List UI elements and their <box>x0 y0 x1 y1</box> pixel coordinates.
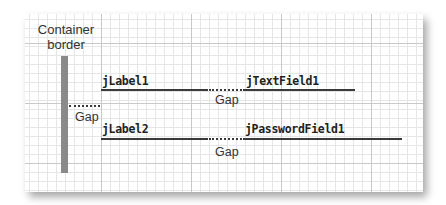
jlabel1-underline <box>101 89 208 91</box>
jlabel1-text: jLabel1 <box>102 74 148 88</box>
jpasswordfield1-text: jPasswordField1 <box>245 122 344 136</box>
container-label-line2: border <box>34 37 98 52</box>
row1-gap-dotted-line <box>209 89 242 91</box>
jlabel2-underline <box>101 138 208 140</box>
container-label-line1: Container <box>34 22 98 37</box>
jtextfield1-underline <box>243 89 355 91</box>
jpasswordfield1-underline <box>243 138 402 140</box>
row2-gap-label: Gap <box>215 145 239 159</box>
row2-gap-dotted-line <box>209 138 242 140</box>
jlabel2-text: jLabel2 <box>102 122 148 136</box>
left-gap-dotted-line <box>69 105 100 107</box>
row1-gap-label: Gap <box>215 93 239 107</box>
container-border-bar <box>61 56 68 173</box>
left-gap-label: Gap <box>75 110 99 124</box>
container-border-label: Container border <box>34 22 98 52</box>
jtextfield1-text: jTextField1 <box>246 74 319 88</box>
